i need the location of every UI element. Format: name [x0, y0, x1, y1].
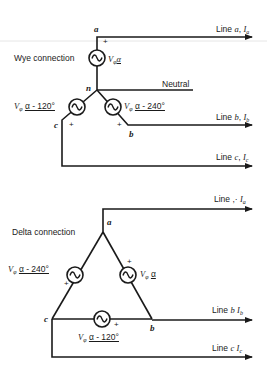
delta-source-ab-label: Vφ α — [140, 270, 156, 280]
delta-source-ab-icon — [120, 267, 136, 283]
delta-line-b-label: Line b Ib — [212, 306, 243, 316]
wye-plus-a: + — [103, 38, 108, 46]
wye-source-a-icon — [89, 50, 105, 66]
delta-title: Delta connection — [12, 228, 75, 237]
wye-node-a: a — [94, 25, 99, 34]
wye-neutral-label: Neutral — [162, 80, 189, 89]
wye-line-b-label: Line b, Ib — [216, 113, 249, 123]
wye-source-b-label: Vφ α - 240° — [124, 102, 165, 112]
wye-node-c: c — [54, 121, 58, 130]
wye-line-a-label: Line a, Ia — [216, 25, 249, 35]
wye-plus-b: + — [117, 121, 122, 129]
delta-source-bc-label: Vφ α - 120° — [78, 333, 119, 343]
delta-line-a-wire — [103, 209, 252, 232]
delta-line-a-label: Line ,· Ia — [214, 195, 246, 205]
delta-source-bc-icon — [94, 311, 110, 327]
delta-node-c: c — [44, 315, 48, 324]
wye-node-b: b — [129, 130, 134, 139]
wye-plus-c: + — [69, 121, 74, 129]
delta-plus-bc: + — [114, 321, 119, 329]
wye-source-c-label: Vφ α - 120° — [14, 102, 55, 112]
wye-title: Wye connection — [14, 54, 74, 63]
delta-line-c-label: Line c Ic — [212, 344, 242, 354]
delta-plus-ca: + — [64, 280, 69, 288]
wye-source-a-label: Vφα — [108, 55, 121, 65]
delta-source-ca-label: Vφ α - 240° — [8, 265, 49, 275]
wye-line-c-label: Line c, Ic — [216, 153, 248, 163]
delta-node-a: a — [107, 218, 112, 227]
wye-source-c-icon — [69, 99, 85, 115]
delta-source-ca-icon — [67, 267, 83, 283]
delta-plus-ab: + — [127, 258, 132, 266]
wye-node-n: n — [86, 84, 91, 93]
wye-line-a-wire — [97, 37, 252, 49]
delta-node-b: b — [150, 324, 155, 333]
wye-source-b-icon — [105, 99, 121, 115]
